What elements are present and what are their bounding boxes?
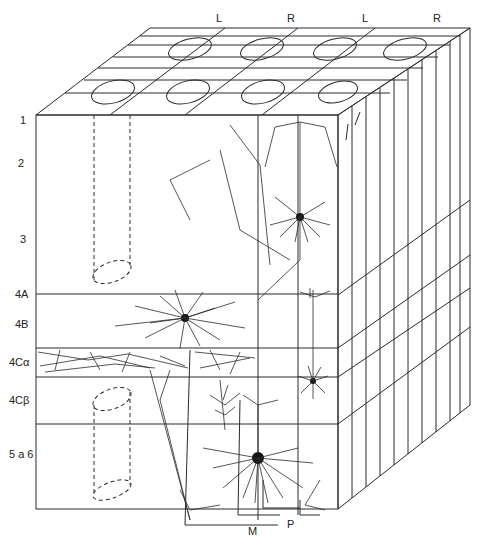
pathway-label-p: P xyxy=(287,518,294,530)
layer-label-2: 2 xyxy=(18,157,24,169)
layer-label-4c-beta: 4Cβ xyxy=(9,394,29,406)
layer-label-4c-alpha: 4Cα xyxy=(9,356,29,368)
neurons xyxy=(38,122,337,525)
layer-label-5-6: 5 a 6 xyxy=(9,448,33,460)
layer-label-4b: 4B xyxy=(15,318,28,330)
cube-drawing xyxy=(0,0,483,546)
layer-label-4a: 4A xyxy=(15,288,28,300)
column-label-l1: L xyxy=(216,12,222,24)
cortex-diagram: L R L R 1 2 3 4A 4B 4Cα 4Cβ 5 a 6 M P xyxy=(0,0,483,546)
column-label-r2: R xyxy=(433,12,441,24)
layer-label-1: 1 xyxy=(20,114,26,126)
pathway-label-m: M xyxy=(248,525,257,537)
column-label-l2: L xyxy=(362,12,368,24)
column-label-r1: R xyxy=(287,12,295,24)
right-face xyxy=(338,28,470,509)
layer-label-3: 3 xyxy=(20,233,26,245)
